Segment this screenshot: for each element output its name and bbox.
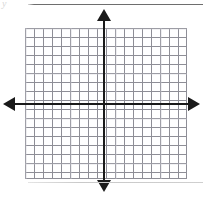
y-axis-label: y [2,0,6,10]
x-axis-right-arrow-icon [188,97,200,111]
bottom-horizontal-rule [28,182,203,183]
x-axis [8,103,194,105]
coordinate-grid-figure: y [0,0,203,198]
top-horizontal-rule [28,4,203,5]
y-axis-up-arrow-icon [97,9,111,21]
y-axis [103,16,105,186]
x-axis-left-arrow-icon [3,97,15,111]
